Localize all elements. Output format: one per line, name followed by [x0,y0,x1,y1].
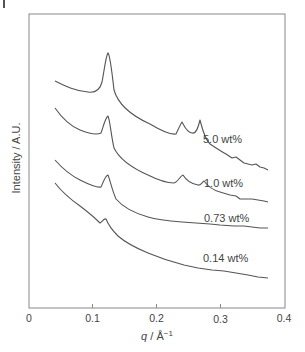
x-tick-2: 0.2 [149,312,164,324]
x-tick-labels: 0 0.1 0.2 0.3 0.4 [26,312,291,325]
x-tick-4: 0.4 [277,312,292,324]
series-label-0-14-wt: 0.14 wt% [203,252,248,264]
y-axis-label: Intensity / A.U. [10,123,22,194]
series-label-1-0-wt: 1.0 wt% [204,177,243,189]
x-tick-1: 0.1 [85,312,100,324]
x-axis-ticks [93,304,221,308]
curve-5-0-wt [55,53,268,170]
x-axis-label: q / Å−1 [141,329,173,342]
x-tick-0: 0 [26,312,32,324]
series-label-5-0-wt: 5.0 wt% [203,133,242,145]
x-tick-3: 0.3 [213,313,228,325]
chart: 0 0.1 0.2 0.3 0.4 q / Å−1 Intensity / A.… [0,0,305,352]
series-label-0-73-wt: 0.73 wt% [204,212,249,224]
